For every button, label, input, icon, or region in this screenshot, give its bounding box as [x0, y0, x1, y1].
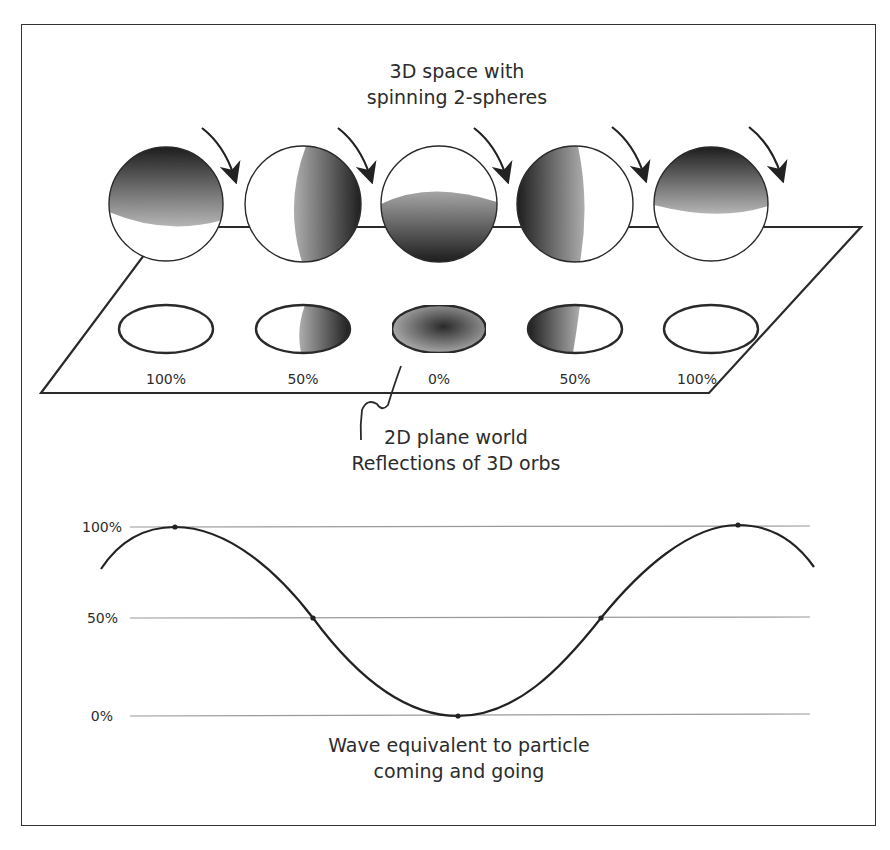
sphere-1: [109, 147, 223, 261]
wave-caption-line-1: Wave equivalent to particle: [328, 734, 589, 756]
y-tick-100: 100%: [82, 519, 122, 535]
gridline-100: [130, 526, 810, 527]
wave-point: [455, 713, 460, 718]
y-tick-50: 50%: [87, 610, 118, 626]
reflection-5: [664, 305, 758, 353]
y-tick-0: 0%: [91, 708, 113, 724]
wave-point: [735, 522, 740, 527]
plane-caption-line-2: Reflections of 3D orbs: [352, 452, 561, 474]
wave-chart: 100% 50% 0%: [82, 519, 814, 724]
reflection-3: [392, 305, 486, 353]
wave-curve: [101, 525, 814, 716]
sphere-3: [381, 146, 497, 262]
plane-caption-line-1: 2D plane world: [384, 426, 528, 448]
sphere-5: [654, 147, 768, 261]
sphere-2: [245, 146, 362, 262]
sphere-4: [517, 146, 633, 262]
wave-point: [598, 615, 603, 620]
reflection-label-2: 50%: [287, 371, 318, 387]
reflection-2: [256, 305, 350, 353]
title-line-2: spinning 2-spheres: [367, 86, 547, 108]
gridline-50: [130, 617, 810, 618]
wave-point: [310, 615, 315, 620]
reflection-label-3: 0%: [428, 371, 450, 387]
reflection-label-5: 100%: [677, 371, 717, 387]
title: 3D space with spinning 2-spheres: [367, 60, 547, 108]
reflection-4: [528, 305, 622, 353]
reflection-label-4: 50%: [559, 371, 590, 387]
reflection-1: [119, 305, 213, 353]
title-line-1: 3D space with: [390, 60, 525, 82]
wave-caption-line-2: coming and going: [374, 760, 545, 782]
diagram-canvas: 3D space with spinning 2-spheres 100% 50…: [0, 0, 890, 850]
reflection-label-1: 100%: [146, 371, 186, 387]
wave-point: [172, 524, 177, 529]
